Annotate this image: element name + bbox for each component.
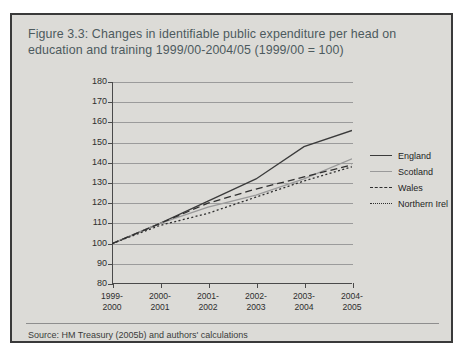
legend-item-wales[interactable]: Wales — [370, 180, 453, 196]
y-axis-label: 90 — [77, 259, 107, 268]
legend-item-scotland[interactable]: Scotland — [370, 164, 453, 180]
x-axis-label: 1999-2000 — [90, 291, 134, 312]
y-axis-label: 170 — [77, 97, 107, 106]
y-axis-label: 100 — [77, 239, 107, 248]
x-axis-label: 2004-2005 — [330, 291, 374, 312]
x-axis-label-line: 2005 — [330, 302, 374, 313]
source-note: Source: HM Treasury (2005b) and authors'… — [28, 330, 248, 340]
legend-swatch-icon — [370, 199, 392, 209]
legend-label: Northern Irel — [398, 199, 448, 209]
y-axis-label: 110 — [77, 218, 107, 227]
y-axis-label: 180 — [77, 77, 107, 86]
chart-series-layer — [112, 82, 352, 284]
legend-item-northern-irel[interactable]: Northern Irel — [370, 196, 453, 212]
x-axis-label-line: 2002 — [186, 302, 230, 313]
y-axis-label: 140 — [77, 158, 107, 167]
legend-label: Wales — [398, 183, 423, 193]
legend-swatch-icon — [370, 183, 392, 193]
x-axis-tick — [353, 283, 354, 288]
x-axis-label-line: 2001- — [186, 291, 230, 302]
x-axis-label: 2000-2001 — [138, 291, 182, 312]
x-axis-label-line: 2004- — [330, 291, 374, 302]
y-axis-label: 120 — [77, 198, 107, 207]
series-line-wales — [112, 165, 352, 244]
x-axis-label-line: 1999- — [90, 291, 134, 302]
page-title: Figure 3.3: Changes in identifiable publ… — [28, 26, 433, 58]
series-line-scotland — [112, 159, 352, 244]
figure-frame: Figure 3.3: Changes in identifiable publ… — [10, 13, 453, 343]
x-axis-label-line: 2000- — [138, 291, 182, 302]
legend-label: England — [398, 151, 431, 161]
y-axis-label: 160 — [77, 117, 107, 126]
chart-legend: EnglandScotlandWalesNorthern Irel — [370, 148, 453, 212]
legend-swatch-icon — [370, 167, 392, 177]
x-axis-label-line: 2004 — [282, 302, 326, 313]
series-line-england — [112, 130, 352, 243]
x-axis-label: 2002-2003 — [234, 291, 278, 312]
chart-area: 80901001101201301401501601701801999-2000… — [12, 70, 451, 325]
x-axis-label: 2001-2002 — [186, 291, 230, 312]
x-axis-label-line: 2003 — [234, 302, 278, 313]
source-divider — [26, 323, 439, 324]
y-axis-label: 130 — [77, 178, 107, 187]
legend-swatch-icon — [370, 151, 392, 161]
x-axis-label-line: 2000 — [90, 302, 134, 313]
legend-label: Scotland — [398, 167, 433, 177]
series-line-northern-irel — [112, 167, 352, 244]
y-axis-label: 150 — [77, 138, 107, 147]
y-axis-label: 80 — [77, 279, 107, 288]
x-axis-label: 2003-2004 — [282, 291, 326, 312]
legend-item-england[interactable]: England — [370, 148, 453, 164]
x-axis-label-line: 2001 — [138, 302, 182, 313]
x-axis-label-line: 2003- — [282, 291, 326, 302]
x-axis-label-line: 2002- — [234, 291, 278, 302]
